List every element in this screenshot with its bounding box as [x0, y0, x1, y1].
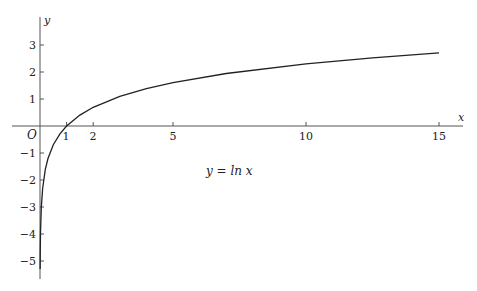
x-axis-label: x [458, 111, 465, 124]
y-tick-label-neg4: −4 [20, 228, 36, 241]
x-ticks [67, 122, 439, 126]
function-annotation: y = ln x [205, 164, 253, 178]
ln-chart: 1 2 5 10 15 3 2 1 −1 −2 −3 −4 −5 x y O y… [0, 0, 477, 291]
y-tick-label-neg1: −1 [20, 147, 36, 160]
origin-label: O [27, 128, 37, 142]
x-tick-label-2: 2 [90, 130, 97, 143]
y-axis-label: y [43, 14, 51, 27]
y-tick-label-1: 1 [29, 93, 36, 106]
y-tick-label-2: 2 [29, 66, 36, 79]
x-tick-label-10: 10 [299, 130, 313, 143]
ln-curve [40, 53, 439, 269]
y-tick-label-neg5: −5 [20, 255, 36, 268]
x-tick-label-15: 15 [432, 130, 446, 143]
x-tick-label-1: 1 [63, 130, 70, 143]
x-tick-label-5: 5 [170, 130, 177, 143]
y-tick-label-neg2: −2 [20, 174, 36, 187]
y-tick-label-neg3: −3 [20, 201, 36, 214]
y-tick-label-3: 3 [29, 39, 36, 52]
